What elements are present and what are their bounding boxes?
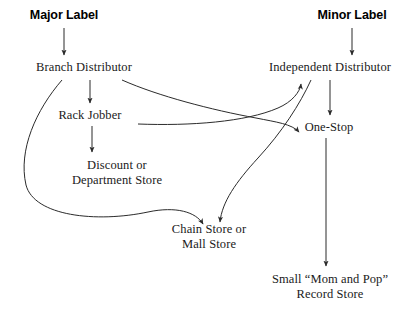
node-minor-label-text: Minor Label <box>300 8 404 23</box>
node-major-label: Major Label <box>12 8 116 23</box>
edge-branch-to-onestop <box>122 80 299 132</box>
node-one-stop-text: One-Stop <box>290 120 368 135</box>
node-discount-store: Discount or Department Store <box>52 158 182 188</box>
node-small-record-store-line1: Small “Mom and Pop” <box>254 272 406 287</box>
node-discount-store-line1: Discount or <box>52 158 182 173</box>
edge-independent-to-chain <box>220 80 311 222</box>
node-small-record-store-line2: Record Store <box>254 287 406 302</box>
node-minor-label: Minor Label <box>300 8 404 23</box>
node-chain-store-line2: Mall Store <box>150 237 268 252</box>
distribution-flow-diagram: Major Label Minor Label Branch Distribut… <box>0 0 418 324</box>
node-small-record-store: Small “Mom and Pop” Record Store <box>254 272 406 302</box>
node-branch-distributor: Branch Distributor <box>8 60 160 75</box>
node-branch-distributor-text: Branch Distributor <box>8 60 160 75</box>
node-independent-distributor: Independent Distributor <box>248 60 412 75</box>
node-one-stop: One-Stop <box>290 120 368 135</box>
edge-rack-to-independent <box>138 84 301 124</box>
node-discount-store-line2: Department Store <box>52 173 182 188</box>
node-chain-store-line1: Chain Store or <box>150 222 268 237</box>
node-rack-jobber-text: Rack Jobber <box>36 108 144 123</box>
node-major-label-text: Major Label <box>12 8 116 23</box>
node-independent-distributor-text: Independent Distributor <box>248 60 412 75</box>
edge-branch-to-chain <box>24 80 203 224</box>
node-chain-store: Chain Store or Mall Store <box>150 222 268 252</box>
node-rack-jobber: Rack Jobber <box>36 108 144 123</box>
